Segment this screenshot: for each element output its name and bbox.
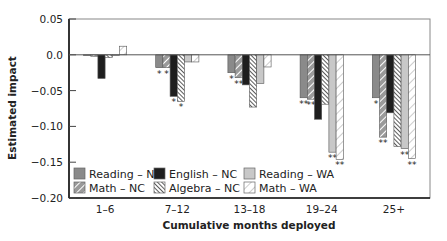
bar bbox=[192, 55, 199, 62]
significance-marker: * bbox=[179, 102, 184, 112]
x-tick-label: 7–12 bbox=[165, 203, 190, 215]
x-tick-label: 25+ bbox=[383, 203, 405, 215]
significance-marker: ** bbox=[379, 138, 389, 148]
bar bbox=[156, 55, 163, 68]
legend-label: Math – WA bbox=[259, 182, 317, 195]
significance-marker: * bbox=[157, 69, 162, 79]
legend-label: Reading – WA bbox=[259, 168, 334, 181]
x-tick-label: 1–6 bbox=[96, 203, 115, 215]
bar bbox=[163, 55, 170, 68]
significance-marker: * bbox=[171, 97, 176, 107]
bar bbox=[250, 55, 257, 107]
y-tick-label: 0.0 bbox=[46, 49, 63, 61]
bar bbox=[394, 55, 401, 147]
legend: Reading – NCEnglish – NCReading – WAMath… bbox=[72, 164, 334, 197]
legend-label: English – NC bbox=[169, 168, 237, 181]
x-tick-label: 13–18 bbox=[234, 203, 266, 215]
significance-marker: ** bbox=[335, 160, 345, 170]
bar bbox=[322, 55, 329, 104]
y-tick-label: −0.05 bbox=[31, 85, 63, 97]
bar bbox=[177, 55, 184, 102]
bar bbox=[401, 55, 408, 149]
bar bbox=[257, 55, 264, 84]
legend-label: Algebra – NC bbox=[169, 182, 240, 195]
significance-marker: * bbox=[374, 99, 379, 109]
y-tick-label: 0.05 bbox=[40, 13, 63, 25]
legend-label: Math – NC bbox=[89, 182, 145, 195]
bar bbox=[387, 55, 394, 113]
bar bbox=[242, 55, 249, 85]
legend-swatch bbox=[154, 182, 165, 193]
impact-bar-chart: 0.050.0−0.05−0.10−0.15−0.20 1–67–1213–18… bbox=[0, 0, 447, 241]
bar bbox=[264, 55, 271, 67]
legend-swatch bbox=[244, 182, 255, 193]
legend-swatch bbox=[74, 168, 85, 179]
legend-swatch bbox=[74, 182, 85, 193]
bar bbox=[315, 55, 322, 119]
legend-label: Reading – NC bbox=[89, 168, 162, 181]
y-tick-label: −0.20 bbox=[31, 192, 63, 204]
bar bbox=[228, 55, 235, 73]
bar bbox=[408, 55, 415, 159]
bar bbox=[300, 55, 307, 98]
y-tick-label: −0.10 bbox=[31, 120, 63, 132]
x-tick-label: 19–24 bbox=[306, 203, 338, 215]
bar bbox=[170, 55, 177, 97]
significance-marker: * bbox=[164, 69, 169, 79]
bar bbox=[185, 55, 192, 62]
y-tick-label: −0.15 bbox=[31, 156, 63, 168]
legend-swatch bbox=[154, 168, 165, 179]
significance-marker: ** bbox=[407, 160, 417, 170]
bar bbox=[329, 55, 336, 152]
x-axis: 1–67–1213–1819–2425+ bbox=[96, 203, 405, 215]
bar bbox=[120, 46, 127, 55]
bar bbox=[235, 55, 242, 78]
legend-swatch bbox=[244, 168, 255, 179]
bar bbox=[98, 55, 105, 79]
x-axis-title: Cumulative months deployed bbox=[163, 219, 336, 231]
bar bbox=[372, 55, 379, 98]
bar bbox=[336, 55, 343, 160]
bar bbox=[307, 55, 314, 99]
bar bbox=[380, 55, 387, 137]
y-axis-title: Estimated impact bbox=[6, 56, 18, 160]
